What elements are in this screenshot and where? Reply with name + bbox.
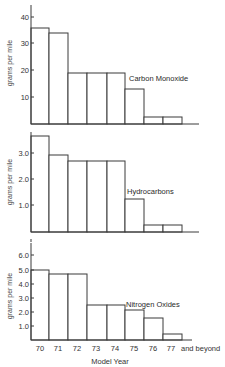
co-y-axis-title: grams per mile [6,40,14,86]
nox-panel: 6.0 5.0 4.0 3.0 2.0 1.0 grams per mile N… [6,243,220,366]
xtick-71: 71 [54,344,62,353]
co-bar-77 [163,117,182,124]
xtick-and-beyond: and beyond [181,344,220,353]
co-bar-73 [87,73,107,124]
nox-bar-72 [68,274,87,340]
nox-bar-74 [107,305,125,340]
nox-ytick-5: 5.0 [19,266,29,275]
nox-bar-76 [144,318,163,340]
nox-bar-71 [49,274,68,340]
nox-ytick-1: 1.0 [19,322,29,331]
xtick-77: 77 [167,344,175,353]
xtick-76: 76 [149,344,157,353]
nox-ytick-6: 6.0 [19,251,29,260]
co-bar-71 [49,33,68,124]
xtick-74: 74 [111,344,119,353]
x-axis-title: Model Year [91,357,129,366]
hc-ytick-3: 3.0 [19,149,29,158]
hc-bar-70 [31,136,49,232]
hc-bar-77 [163,225,182,232]
nox-bar-75 [125,310,144,340]
x-tick-labels: 70 71 72 73 74 75 76 77 and beyond [36,344,220,353]
hc-bar-72 [68,161,87,232]
xtick-72: 72 [73,344,81,353]
co-bar-72 [68,73,87,124]
nox-series-label: Nitrogen Oxides [126,300,180,309]
nox-ytick-2: 2.0 [19,308,29,317]
nox-bar-77 [163,334,182,340]
nox-bar-70 [31,270,49,340]
co-bar-76 [144,117,163,124]
xtick-75: 75 [130,344,138,353]
hc-ytick-1: 1.0 [19,201,29,210]
hc-ytick-2: 2.0 [19,175,29,184]
co-ytick-20: 20 [21,66,29,75]
co-series-label: Carbon Monoxide [129,74,188,83]
co-bar-75 [125,89,144,124]
co-ytick-30: 30 [21,39,29,48]
co-ytick-40: 40 [21,13,29,22]
hc-bar-73 [87,161,107,232]
hc-y-axis-title: grams per mile [6,159,14,205]
nox-ytick-3: 3.0 [19,294,29,303]
hc-bar-75 [125,199,144,232]
nox-ytick-4: 4.0 [19,280,29,289]
hc-bars [31,136,182,232]
co-bar-70 [31,28,49,124]
emissions-chart-figure: 40 30 20 10 grams per mile Carbon Monoxi… [0,0,225,367]
co-bar-74 [107,73,125,124]
co-panel: 40 30 20 10 grams per mile Carbon Monoxi… [6,5,199,124]
xtick-73: 73 [92,344,100,353]
hc-series-label: Hydrocarbons [127,187,174,196]
hc-bar-71 [49,155,68,232]
hc-panel: 3.0 2.0 1.0 grams per mile Hydrocarbons [6,132,199,242]
nox-bar-73 [87,305,107,340]
co-ytick-10: 10 [21,93,29,102]
hc-bar-76 [144,225,163,232]
xtick-70: 70 [36,344,44,353]
nox-y-axis-title: grams per mile [6,273,14,319]
hc-bar-74 [107,161,125,232]
